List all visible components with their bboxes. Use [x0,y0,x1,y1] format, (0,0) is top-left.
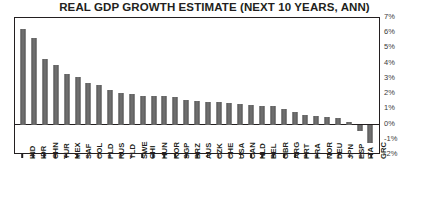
bar [108,90,113,125]
bar [314,116,319,124]
x-axis-country-label: SGP [183,143,191,159]
x-axis-country-label: TLD [128,144,136,159]
x-axis-country-label: ITA [367,147,375,159]
x-axis-label-slot: GRC [366,159,377,202]
bar-slot [213,18,224,153]
bar-slot [148,18,159,153]
bar [140,96,145,125]
x-axis-label-slot: CHE [213,159,224,202]
bar [216,102,221,124]
x-axis-country-label: USA [238,143,246,159]
bar-slot [137,18,148,153]
x-axis-label-slot: AUS [192,159,203,202]
bar [346,122,351,125]
x-axis-country-label: PLD [107,144,115,160]
bar-slot [235,18,246,153]
bar-slot [126,18,137,153]
bar-slot [94,18,105,153]
bar-slot [343,18,354,153]
bar [184,100,189,124]
x-axis-label-slot: CZK [202,159,213,202]
bar-slot [192,18,203,153]
x-axis-country-label: BRZ [194,143,202,159]
x-axis-label-slot: FRA [301,159,312,202]
x-axis-country-label: BEL [270,144,278,160]
x-axis-country-label: DEU [336,143,344,159]
bar-slot [354,18,365,153]
x-axis-label-slot: TUR [50,159,61,202]
y-axis-tick-label: 4% [384,59,395,67]
x-axis-country-label: IND [29,146,37,159]
x-axis-label-slot: SAF [72,159,83,202]
bar [281,109,286,124]
bar-slot [29,18,40,153]
x-axis-label-slot: RUS [104,159,115,202]
x-axis-label-slot: TLD [115,159,126,202]
plot-area [14,17,380,154]
x-axis-country-label: TUR [63,143,71,159]
x-axis-label-slot: IND [17,159,28,202]
x-axis-label-slot: CAN [235,159,246,202]
x-axis-label-slot: HUN [148,159,159,202]
bar-slot [116,18,127,153]
chart-container: REAL GDP GROWTH ESTIMATE (NEXT 10 YEARS,… [0,0,429,202]
x-axis-country-label: GBR [282,142,290,159]
bar [335,118,340,125]
bar [86,83,91,124]
bar [64,74,69,124]
x-axis-label-slot: CHI [137,159,148,202]
y-axis-tick-label: 7% [384,13,395,21]
x-axis-label-slot: SGP [170,159,181,202]
bar-series [15,18,379,153]
x-axis-country-label: ARG [293,142,301,159]
x-axis-country-label: JPN [346,144,354,159]
bar [151,96,156,125]
x-axis-country-label: AUS [205,143,213,159]
tick-mark [22,154,24,158]
x-axis-label-slot: COL [82,159,93,202]
y-axis-tick-label: 3% [384,74,395,82]
bar-slot [257,18,268,153]
x-axis-country-label: PRT [303,144,311,160]
x-axis-country-label: CHN [53,142,61,159]
bar-slot [105,18,116,153]
bar [357,125,362,131]
bar-slot [51,18,62,153]
bar [162,96,167,124]
x-axis-country-label: ESP [357,144,365,160]
bar-slot [267,18,278,153]
x-axis-country-label: RUS [118,143,126,159]
bar [303,115,308,124]
bar-slot [311,18,322,153]
x-axis-label-slot: USA [224,159,235,202]
x-axis-label-slot: KOR [159,159,170,202]
x-axis-label-slot: BEL [257,159,268,202]
x-axis-country-label: HUN [162,142,170,159]
bar-slot [278,18,289,153]
bar [53,65,58,124]
bar-slot [289,18,300,153]
chart-title: REAL GDP GROWTH ESTIMATE (NEXT 10 YEARS,… [0,1,429,13]
bar [270,106,275,124]
bar-slot [18,18,29,153]
x-axis-country-label: NOR [326,142,334,159]
bar-slot [202,18,213,153]
bar-slot [365,18,376,153]
bar-slot [159,18,170,153]
y-axis-tick-label: 0% [384,120,395,128]
x-axis-label-slot: IDR [28,159,39,202]
bar-slot [40,18,51,153]
x-axis-country-label: CZK [216,143,224,159]
x-axis-label-slot: ITA [355,159,366,202]
bar [173,97,178,124]
x-axis-label-slot: NLD [246,159,257,202]
x-axis-country-label: KOR [173,142,181,159]
bar [292,112,297,124]
bar [368,125,373,143]
x-axis-label-slot: NOR [311,159,322,202]
bar [249,105,254,125]
x-axis-label-slot: PLD [93,159,104,202]
bar [194,101,199,125]
bar-slot [181,18,192,153]
bar [325,117,330,125]
